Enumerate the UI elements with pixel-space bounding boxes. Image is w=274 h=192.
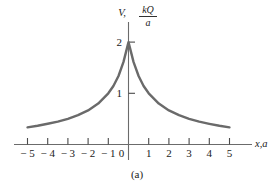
y-tick-label-2: 2 [117, 36, 123, 48]
y-axis-label-variable: V, [118, 7, 126, 18]
x-tick-label-3: 3 [186, 147, 192, 159]
figure-caption: (a) [0, 168, 274, 180]
y-axis-unit-denominator: a [146, 17, 151, 28]
x-tick-label-5: 5 [227, 147, 233, 159]
x-axis-label: x,a [254, 138, 268, 149]
potential-vs-position-plot: − 5 − 4 − 3 − 2 − 1 0 1 2 3 4 5 1 2 x,a … [0, 0, 274, 192]
x-tick-label--1: − 1 [101, 147, 115, 159]
y-tick-label-1: 1 [117, 87, 123, 99]
x-tick-label-0: 0 [119, 147, 125, 159]
y-axis-unit-numerator: kQ [142, 4, 154, 15]
x-tick-label--5: − 5 [20, 147, 35, 159]
x-tick-label--2: − 2 [81, 147, 95, 159]
figure-container: − 5 − 4 − 3 − 2 − 1 0 1 2 3 4 5 1 2 x,a … [0, 0, 274, 192]
x-tick-label--4: − 4 [40, 147, 55, 159]
x-tick-label-1: 1 [146, 147, 152, 159]
x-tick-label-2: 2 [166, 147, 172, 159]
x-tick-label--3: − 3 [61, 147, 76, 159]
x-tick-label-4: 4 [207, 147, 213, 159]
y-axis-label: V, kQ a [118, 4, 157, 28]
